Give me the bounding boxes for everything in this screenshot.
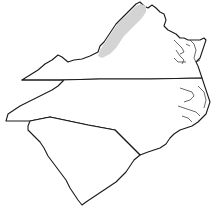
outline-map xyxy=(0,0,217,211)
